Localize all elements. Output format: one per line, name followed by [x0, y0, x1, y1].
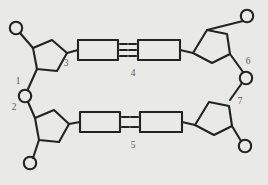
phosphate-circle-left-middle: [19, 90, 31, 102]
deoxyribose-ring-bottom-left: [35, 110, 69, 142]
label-4-hydrogen-bonds-triple: 4: [131, 68, 136, 78]
dna-structure-diagram: 1 2 3 4 5 6 7: [0, 0, 268, 185]
glycosidic-bond-bottom-right: [182, 122, 195, 125]
hydrogen-bonds-bottom: [122, 117, 138, 127]
bond-phosphate-sugar-top-left: [20, 33, 33, 48]
label-7-nucleotide: 7: [238, 96, 243, 106]
deoxyribose-ring-bottom-right: [195, 102, 232, 135]
nitrogenous-base-top-right: [138, 40, 180, 60]
bond-phosphate-sugar-bottom-left: [28, 102, 35, 118]
deoxyribose-ring-top-left: [33, 40, 67, 71]
label-6-deoxyribose-sugar: 6: [246, 56, 251, 66]
bond-sugar-phosphate-right-middle: [230, 54, 243, 72]
nitrogenous-base-bottom-left: [80, 112, 120, 132]
label-5-hydrogen-bonds-double: 5: [131, 140, 136, 150]
glycosidic-bond-bottom-left: [69, 122, 80, 124]
bond-sugar-phosphate-left-middle: [28, 69, 37, 89]
label-2-phosphodiester-bond: 2: [12, 102, 17, 112]
diagram-canvas: 1 2 3 4 5 6 7: [0, 0, 268, 185]
label-1-phosphate: 1: [16, 76, 21, 86]
nitrogenous-base-bottom-right: [140, 112, 182, 132]
nitrogenous-base-top-left: [78, 40, 118, 60]
label-3-glycosidic-bond: 3: [64, 58, 69, 68]
glycosidic-bond-top-left: [67, 50, 78, 53]
bond-sugar-phosphate-bottom-left: [33, 140, 39, 158]
deoxyribose-ring-top-right: [193, 30, 230, 63]
phosphate-circle-bottom-left: [24, 157, 36, 169]
bond-sugar-phosphate-top-right: [207, 21, 243, 30]
hydrogen-bonds-top: [120, 44, 136, 56]
bond-sugar-phosphate-bottom-right: [232, 126, 241, 141]
glycosidic-bond-top-right: [180, 50, 193, 53]
